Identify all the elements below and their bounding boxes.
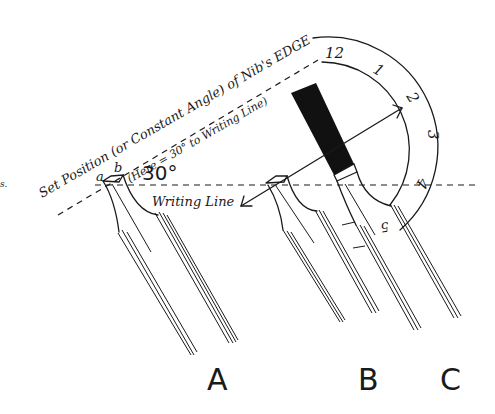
nib-label-b: B xyxy=(358,362,379,397)
clock-number-2: 2 xyxy=(402,88,423,106)
clock-number-1: 1 xyxy=(370,60,387,80)
nib-b-rotated xyxy=(291,83,461,330)
clock-number-5: 5 xyxy=(379,219,390,235)
edge-label-a: a xyxy=(96,169,104,184)
nib-label-a: A xyxy=(207,362,228,397)
nib-edge-fill xyxy=(291,83,354,175)
calligraphy-nib-angle-diagram: Set Position (or Constant Angle) of Nib'… xyxy=(0,0,495,414)
nib-b-left xyxy=(266,176,379,322)
writing-line-label: Writing Line xyxy=(152,194,235,209)
angle-label: 30° xyxy=(142,161,177,185)
edge-label-b: b xyxy=(114,160,122,175)
clock-number-4: 4 xyxy=(412,174,433,192)
nib-label-c: C xyxy=(440,362,461,397)
clock-number-3: 3 xyxy=(424,130,442,140)
diagram-svg: Set Position (or Constant Angle) of Nib'… xyxy=(0,0,495,414)
stray-mark: s. xyxy=(0,179,8,189)
clock-number-12: 12 xyxy=(325,44,344,62)
